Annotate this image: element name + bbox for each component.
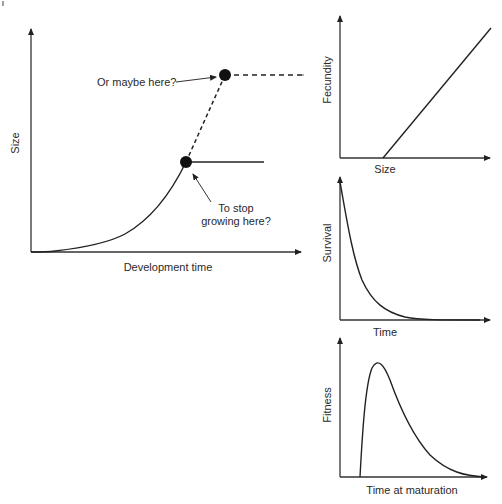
fitness-curve: [360, 363, 485, 477]
main-y-label: Size: [9, 132, 21, 153]
stray-dot: [302, 74, 304, 76]
lower-maturation-point: [180, 156, 192, 168]
upper-maturation-point: [219, 69, 231, 81]
lower-annotation-label-line1: To stop: [218, 202, 253, 214]
fitness-y-label: Fitness: [321, 387, 333, 423]
lower-annotation-label-line2: growing here?: [201, 215, 271, 227]
fecundity-panel: Size Fecundity: [302, 16, 491, 175]
main-x-label: Development time: [124, 261, 213, 273]
fitness-panel: Time at maturation Fitness: [321, 338, 487, 496]
survival-panel: Time Survival: [321, 177, 490, 338]
upper-annotation-arrow: [176, 77, 216, 82]
lower-annotation-arrow: [193, 174, 211, 202]
survival-x-label: Time: [373, 326, 397, 338]
fecundity-y-label: Fecundity: [321, 56, 333, 104]
figure: Or maybe here? To stop growing here? Dev…: [0, 0, 502, 504]
growth-curve: [31, 162, 186, 252]
upper-annotation-label: Or maybe here?: [97, 76, 176, 88]
fitness-x-label: Time at maturation: [366, 484, 457, 496]
survival-y-label: Survival: [321, 223, 333, 262]
continued-growth-dashed: [186, 75, 225, 162]
main-panel: Or maybe here? To stop growing here? Dev…: [9, 29, 303, 273]
fecundity-line: [383, 28, 491, 158]
fecundity-x-label: Size: [374, 163, 395, 175]
survival-curve: [340, 182, 480, 320]
